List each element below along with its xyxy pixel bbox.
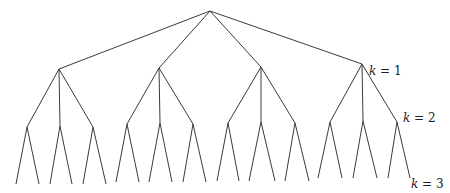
edge-k2-to-k3 (116, 124, 127, 182)
edge-k2-to-k3 (93, 127, 106, 184)
edge-k2-to-k3 (183, 124, 193, 182)
edge-k1-to-k2 (127, 68, 159, 124)
tree-diagram: k = 1 k = 2 k = 3 (0, 0, 450, 193)
edge-k1-to-k2 (59, 69, 60, 126)
edge-k2-to-k3 (388, 122, 397, 178)
edge-k2-to-k3 (27, 127, 39, 184)
edge-k2-to-k3 (83, 127, 93, 184)
edge-k2-to-k3 (60, 126, 72, 184)
level-label-k3: k = 3 (411, 177, 444, 191)
level-label-k2: k = 2 (403, 111, 436, 125)
edge-k1-to-k2 (362, 64, 363, 121)
edge-k1-to-k2 (27, 69, 59, 127)
edge-k2-to-k3 (330, 122, 342, 178)
edge-k2-to-k3 (193, 124, 206, 182)
edge-root-to-k1 (159, 11, 210, 68)
edge-k2-to-k3 (318, 122, 330, 178)
edge-k2-to-k3 (285, 123, 295, 181)
edge-k2-to-k3 (149, 123, 160, 182)
edge-k2-to-k3 (397, 122, 410, 178)
edge-k1-to-k2 (159, 68, 160, 123)
edge-k1-to-k2 (228, 67, 261, 123)
edge-k2-to-k3 (16, 127, 27, 184)
edge-k2-to-k3 (160, 123, 172, 182)
edge-k1-to-k2 (261, 67, 295, 123)
edge-k2-to-k3 (50, 126, 60, 184)
edge-k1-to-k2 (159, 68, 193, 124)
edge-k2-to-k3 (261, 122, 275, 181)
edge-k2-to-k3 (249, 122, 261, 181)
level-labels: k = 1 k = 2 k = 3 (369, 64, 444, 191)
edge-k1-to-k2 (330, 64, 362, 122)
tree-edges (16, 11, 410, 184)
edge-k2-to-k3 (228, 123, 239, 181)
edge-k1-to-k2 (59, 69, 93, 127)
edge-k2-to-k3 (217, 123, 228, 181)
edge-root-to-k1 (59, 11, 210, 69)
edge-k2-to-k3 (295, 123, 309, 181)
edge-root-to-k1 (210, 11, 362, 64)
edge-k2-to-k3 (363, 121, 377, 178)
edge-k2-to-k3 (127, 124, 139, 182)
edge-k2-to-k3 (353, 121, 363, 178)
level-label-k1: k = 1 (369, 64, 402, 78)
